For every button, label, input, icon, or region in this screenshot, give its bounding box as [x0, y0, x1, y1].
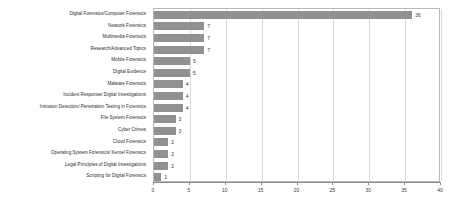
bar[interactable] — [154, 46, 204, 54]
bar-row: 4 — [154, 79, 439, 91]
bar-value-label: 3 — [179, 126, 182, 136]
x-axis-tick-label: 15 — [258, 187, 264, 194]
bar-row: 5 — [154, 55, 439, 67]
category-label: Mobile Forensics — [111, 54, 146, 66]
x-axis-tick-label: 30 — [365, 187, 371, 194]
category-label: Cloud Forensics — [113, 136, 146, 148]
bar-row: 5 — [154, 67, 439, 79]
bar-value-label: 5 — [193, 68, 196, 78]
bar-chart: Digital Forensics/Computer ForensicsNetw… — [0, 0, 453, 203]
x-axis-tick — [332, 182, 333, 185]
bar[interactable] — [154, 34, 204, 42]
category-label: Cyber Crimes — [118, 124, 146, 136]
bar-value-label: 2 — [171, 149, 174, 159]
bar[interactable] — [154, 127, 176, 135]
x-axis-tick-label: 40 — [437, 187, 443, 194]
bar[interactable] — [154, 69, 190, 77]
x-axis-tick — [404, 182, 405, 185]
bar-value-label: 2 — [171, 161, 174, 171]
bar-row: 3 — [154, 125, 439, 137]
category-axis-labels: Digital Forensics/Computer ForensicsNetw… — [0, 8, 150, 182]
bar-row: 36 — [154, 9, 439, 21]
gridline — [441, 9, 442, 181]
bar-value-label: 7 — [207, 45, 210, 55]
bar-row: 7 — [154, 44, 439, 56]
bar[interactable] — [154, 173, 161, 181]
bar-value-label: 7 — [207, 21, 210, 31]
x-axis-tick-label: 20 — [294, 187, 300, 194]
x-axis-tick-label: 25 — [330, 187, 336, 194]
plot-area: 3677755444332221 — [153, 8, 440, 182]
x-axis-tick — [153, 182, 154, 185]
category-label: Malware Forensics — [107, 78, 146, 90]
category-label: Legal Principles of Digital Investigatio… — [65, 159, 146, 171]
bar-value-label: 4 — [186, 103, 189, 113]
category-label: Multimedia Forensics — [103, 31, 146, 43]
bar-row: 4 — [154, 90, 439, 102]
bar[interactable] — [154, 57, 190, 65]
bar[interactable] — [154, 11, 412, 19]
bar[interactable] — [154, 80, 183, 88]
bar[interactable] — [154, 22, 204, 30]
bar-value-label: 36 — [415, 10, 421, 20]
category-label: Intrusion Detection/ Penetration Testing… — [40, 101, 146, 113]
x-axis-tick — [368, 182, 369, 185]
x-axis-tick — [189, 182, 190, 185]
bar-series: 3677755444332221 — [154, 9, 439, 181]
bar[interactable] — [154, 104, 183, 112]
bar[interactable] — [154, 115, 176, 123]
category-label: Scripting for Digital Forensics — [86, 170, 146, 182]
bar-row: 3 — [154, 113, 439, 125]
bar-row: 2 — [154, 160, 439, 172]
bar-row: 7 — [154, 32, 439, 44]
bar[interactable] — [154, 162, 168, 170]
bar-row: 2 — [154, 148, 439, 160]
bar-value-label: 7 — [207, 33, 210, 43]
bar[interactable] — [154, 92, 183, 100]
bar[interactable] — [154, 150, 168, 158]
bar-value-label: 5 — [193, 56, 196, 66]
category-label: Digital Forensics/Computer Forensics — [69, 8, 146, 20]
x-axis-tick — [440, 182, 441, 185]
x-axis-tick-label: 10 — [222, 187, 228, 194]
category-label: Research/Advanced Topics — [90, 43, 146, 55]
bar-value-label: 3 — [179, 114, 182, 124]
x-axis-tick — [261, 182, 262, 185]
bar-row: 4 — [154, 102, 439, 114]
x-axis-tick — [225, 182, 226, 185]
bar[interactable] — [154, 138, 168, 146]
bar-row: 7 — [154, 21, 439, 33]
x-axis-tick-label: 5 — [187, 187, 190, 194]
category-label: Network Forensics — [108, 20, 146, 32]
x-axis-tick-label: 35 — [401, 187, 407, 194]
x-axis-tick — [297, 182, 298, 185]
category-label: Digital Evidence — [113, 66, 146, 78]
bar-value-label: 4 — [186, 91, 189, 101]
bar-value-label: 4 — [186, 79, 189, 89]
category-label: File System Forensics — [101, 112, 146, 124]
x-axis-tick-label: 0 — [152, 187, 155, 194]
bar-value-label: 2 — [171, 137, 174, 147]
bar-value-label: 1 — [164, 172, 167, 182]
category-label: Operating System Forensics/ Kernel Foren… — [51, 147, 146, 159]
category-label: Incident Response/ Digital Investigation… — [63, 89, 146, 101]
bar-row: 2 — [154, 137, 439, 149]
